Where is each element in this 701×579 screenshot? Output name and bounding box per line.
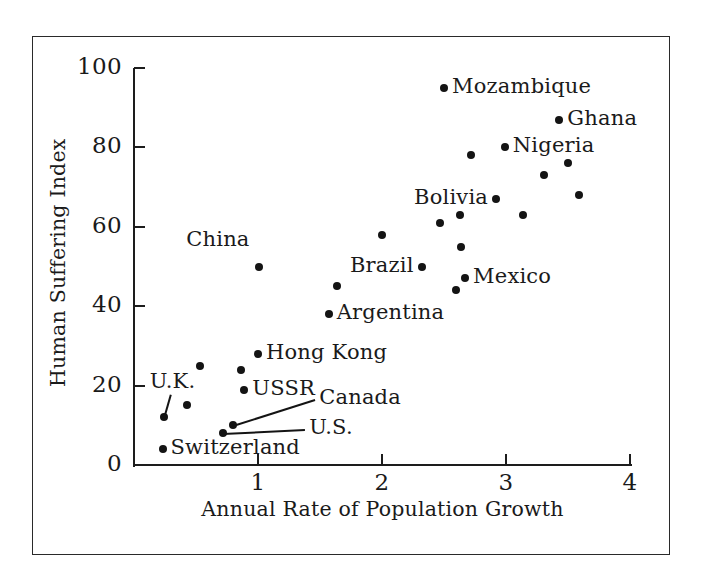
data-point — [456, 211, 464, 219]
y-tick-40 — [134, 305, 145, 307]
x-tick-label-1: 1 — [238, 469, 278, 495]
x-tick-3 — [505, 454, 507, 465]
point-label-argentina: Argentina — [337, 300, 445, 324]
point-label-nigeria: Nigeria — [513, 133, 595, 157]
point-label-switzerland: Switzerland — [171, 435, 300, 459]
x-tick-label-3: 3 — [486, 469, 526, 495]
data-point — [540, 171, 548, 179]
data-point — [436, 219, 444, 227]
x-tick-4 — [629, 454, 631, 465]
point-label-hong-kong: Hong Kong — [266, 340, 387, 364]
point-label-canada: Canada — [319, 385, 401, 409]
data-point — [240, 386, 248, 394]
point-label-ussr: USSR — [252, 376, 315, 400]
point-label-china: China — [186, 227, 249, 251]
data-point — [183, 401, 191, 409]
data-point — [333, 282, 341, 290]
point-label-mozambique: Mozambique — [452, 74, 591, 98]
y-tick-label-0: 0 — [62, 450, 122, 476]
point-label-u-s-: U.S. — [309, 415, 353, 439]
point-label-bolivia: Bolivia — [0, 185, 488, 209]
leader-line — [223, 429, 305, 435]
data-point — [457, 243, 465, 251]
leader-line — [233, 399, 315, 427]
y-tick-100 — [134, 67, 145, 69]
data-point — [461, 274, 469, 282]
point-label-ghana: Ghana — [567, 106, 637, 130]
data-point — [555, 116, 563, 124]
y-tick-label-60: 60 — [62, 212, 122, 238]
point-label-mexico: Mexico — [473, 264, 551, 288]
data-point — [159, 445, 167, 453]
y-tick-0 — [134, 464, 145, 466]
data-point — [196, 362, 204, 370]
y-tick-80 — [134, 146, 145, 148]
data-point — [440, 84, 448, 92]
data-point — [492, 195, 500, 203]
plot-area: 020406080100 1234 SwitzerlandU.K.U.S.Can… — [0, 0, 701, 579]
data-point — [501, 143, 509, 151]
data-point — [378, 231, 386, 239]
data-point — [418, 263, 426, 271]
y-tick-20 — [134, 385, 145, 387]
y-axis-title: Human Suffering Index — [46, 147, 70, 387]
y-tick-label-20: 20 — [62, 371, 122, 397]
x-tick-label-4: 4 — [610, 469, 650, 495]
x-tick-label-2: 2 — [362, 469, 402, 495]
y-tick-label-100: 100 — [62, 53, 122, 79]
x-axis-title: Annual Rate of Population Growth — [133, 497, 632, 521]
scatter-plot-figure: 020406080100 1234 SwitzerlandU.K.U.S.Can… — [0, 0, 701, 579]
data-point — [325, 310, 333, 318]
x-tick-2 — [381, 454, 383, 465]
y-tick-label-40: 40 — [62, 291, 122, 317]
y-tick-label-80: 80 — [62, 132, 122, 158]
data-point — [467, 151, 475, 159]
data-point — [452, 286, 460, 294]
point-label-u-k-: U.K. — [150, 369, 196, 393]
data-point — [237, 366, 245, 374]
data-point — [254, 350, 262, 358]
data-point — [519, 211, 527, 219]
y-tick-60 — [134, 226, 145, 228]
data-point — [564, 159, 572, 167]
data-point — [575, 191, 583, 199]
